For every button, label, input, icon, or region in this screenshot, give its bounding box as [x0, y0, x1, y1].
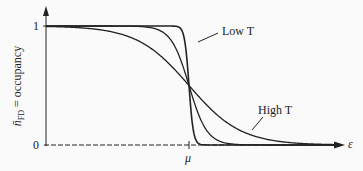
high-t-text: High T [258, 103, 292, 117]
y-tick-1: 1 [33, 19, 39, 34]
ylabel-n: n̄ [10, 120, 24, 126]
x-axis-label: ε [348, 137, 353, 152]
low-t-label: Low T [222, 24, 254, 39]
y-axis-label: n̄FD = occupancy [10, 46, 26, 126]
chart: 1 0 μ ε Low T High T n̄FD = occupancy [0, 0, 363, 171]
high-t-label: High T [258, 103, 292, 118]
ylabel-rest: = occupancy [10, 46, 24, 110]
high-t-pointer [252, 117, 263, 130]
plot-area [0, 0, 363, 171]
curve-mid-t [46, 26, 336, 145]
low-t-pointer [198, 33, 218, 42]
low-t-text: Low T [222, 24, 254, 38]
ylabel-sub: FD [17, 110, 26, 120]
y-tick-0: 0 [33, 138, 39, 153]
y-axis-arrow-icon [43, 6, 49, 16]
curve-high-t [46, 26, 336, 144]
curve-low-t [46, 26, 336, 145]
x-tick-mu: μ [185, 151, 191, 166]
